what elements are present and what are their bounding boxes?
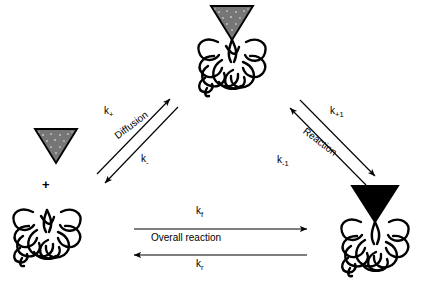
species-free-protein: [13, 210, 80, 267]
rate-label-k-r: kr: [196, 259, 204, 272]
plus-operator: +: [42, 178, 50, 191]
rate-subscript: r: [201, 263, 204, 272]
protein-coil-bottom-right: [341, 220, 408, 277]
species-encounter-complex: [198, 6, 265, 96]
rate-label-k-plus-1: k+1: [330, 106, 344, 119]
pathway-label-overall-reaction: Overall reaction: [151, 233, 221, 243]
rate-label-k-minus-1: k-1: [277, 155, 289, 168]
rate-subscript: +1: [335, 110, 344, 119]
rate-subscript: -1: [282, 159, 289, 168]
substrate-triangle-black-bottom-right: [352, 186, 398, 222]
protein-coil-top: [198, 40, 265, 97]
substrate-triangle-gray-top: [211, 6, 253, 40]
rate-subscript: f: [201, 210, 203, 219]
rate-label-k-plus: k+: [104, 106, 113, 119]
rate-subscript: +: [109, 110, 113, 119]
rate-label-k-minus: k-: [141, 154, 149, 167]
species-product-complex: [341, 186, 408, 276]
species-free-substrate: [35, 129, 77, 163]
rate-label-k-f: kf: [196, 206, 203, 219]
rate-subscript: -: [146, 158, 149, 167]
